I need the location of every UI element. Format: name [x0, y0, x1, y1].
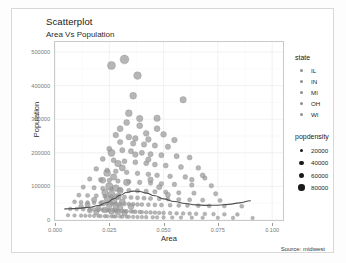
data-point	[153, 190, 157, 194]
data-point	[178, 164, 183, 169]
data-point	[172, 137, 178, 143]
data-point	[117, 126, 123, 132]
data-point	[152, 162, 157, 167]
data-point	[168, 211, 172, 215]
legend-item[interactable]: MI	[295, 87, 346, 98]
legend-item-label: IL	[311, 67, 316, 74]
data-point	[122, 159, 127, 164]
data-point	[168, 174, 173, 179]
data-point	[104, 169, 111, 176]
data-point	[154, 115, 160, 121]
data-point	[172, 182, 177, 187]
data-point	[187, 155, 192, 160]
data-point	[140, 215, 144, 219]
data-point	[117, 187, 123, 193]
legend-item[interactable]: IN	[295, 76, 346, 87]
data-point	[140, 210, 144, 214]
data-point	[148, 152, 153, 157]
x-tick-label: 0.050	[157, 227, 171, 233]
data-point	[188, 198, 192, 202]
data-point	[127, 215, 131, 219]
plot-panel	[54, 41, 284, 221]
legend-popdensity-rows: 20000400006000080000	[295, 144, 346, 194]
data-point	[159, 153, 164, 158]
data-point	[155, 216, 159, 220]
data-point	[192, 191, 196, 195]
legend-item[interactable]: WI	[295, 109, 346, 120]
data-point	[102, 207, 108, 213]
legend-size-swatch-icon	[295, 149, 308, 152]
data-point	[116, 179, 121, 184]
x-tick-label: 0.075	[211, 227, 225, 233]
scatter-svg	[55, 42, 283, 220]
legend-popdensity-title: popdensity	[295, 133, 346, 140]
data-point	[136, 202, 140, 206]
data-point	[236, 213, 240, 217]
data-point	[91, 197, 96, 202]
data-point	[122, 195, 126, 199]
legend-popdensity: popdensity 20000400006000080000	[295, 133, 346, 194]
data-point	[144, 210, 148, 214]
data-point	[124, 120, 130, 126]
legend-color-swatch-icon	[295, 91, 308, 94]
data-point	[222, 212, 226, 216]
legend-item[interactable]: 40000	[295, 157, 346, 170]
data-point	[125, 110, 132, 117]
legend-color-swatch-icon	[295, 102, 308, 105]
y-tick-label: 0	[47, 217, 50, 223]
data-point	[151, 215, 155, 219]
legend-item[interactable]: IL	[295, 65, 346, 76]
plot-card: Scatterplot Area Vs Population Populatio…	[11, 8, 334, 253]
data-point	[162, 216, 166, 220]
data-point	[189, 177, 194, 182]
data-point	[240, 204, 244, 208]
data-point	[115, 209, 121, 215]
data-point	[73, 200, 77, 204]
data-point	[201, 216, 205, 220]
data-point	[87, 177, 92, 182]
data-point	[165, 192, 170, 197]
data-point	[146, 137, 152, 143]
legend-item[interactable]: OH	[295, 98, 346, 109]
data-point	[181, 212, 185, 216]
legend-item-label: MI	[311, 89, 318, 96]
data-point	[196, 166, 201, 171]
data-point	[201, 198, 205, 202]
data-point	[113, 169, 118, 174]
data-point	[137, 123, 143, 129]
data-point	[100, 177, 106, 183]
data-point	[177, 197, 181, 201]
data-point	[107, 62, 115, 70]
legend-size-swatch-icon	[295, 184, 308, 191]
data-point	[144, 215, 148, 219]
data-point	[79, 200, 83, 204]
x-tick-label: 0.100	[265, 227, 279, 233]
data-point	[85, 193, 89, 197]
x-tick-mark	[55, 223, 56, 226]
data-point	[170, 216, 174, 220]
data-point	[113, 132, 119, 138]
data-point	[146, 203, 150, 207]
y-tick-label: 300000	[31, 116, 50, 122]
data-point	[165, 144, 170, 149]
data-point	[133, 152, 139, 158]
data-point	[108, 149, 115, 156]
legend-size-swatch-icon	[295, 173, 308, 178]
data-point	[124, 170, 129, 175]
screenshot-root: Scatterplot Area Vs Population Populatio…	[0, 0, 346, 263]
y-tick-label: 400000	[31, 83, 50, 89]
data-point	[139, 150, 144, 155]
data-point	[128, 204, 134, 210]
data-point	[203, 212, 207, 216]
data-point	[212, 212, 216, 216]
data-point	[168, 203, 172, 207]
data-point	[141, 142, 146, 147]
legend-item[interactable]: 80000	[295, 182, 346, 195]
legend-state: state ILINMIOHWI	[295, 54, 346, 120]
legend-item[interactable]: 60000	[295, 169, 346, 182]
legend-item[interactable]: 20000	[295, 144, 346, 157]
legend-item-label: OH	[311, 100, 320, 107]
data-point	[87, 208, 92, 213]
data-point	[136, 215, 140, 219]
data-point	[84, 214, 88, 218]
